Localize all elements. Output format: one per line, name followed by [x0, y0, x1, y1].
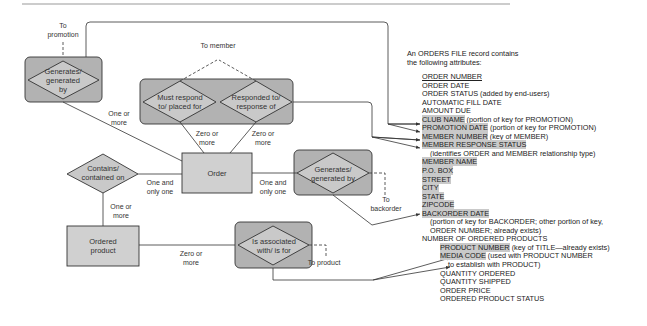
order-entity-label: Order — [182, 153, 252, 193]
attribute-name: AMOUNT DUE — [422, 106, 471, 115]
attribute-name: ZIPCODE — [422, 200, 454, 209]
backorder-relationship-label: Generates/ generated by — [310, 158, 356, 190]
cardinality-promotion-order: One or more — [104, 110, 134, 127]
member-must-relationship-label: Must respond to/ placed for — [155, 86, 205, 118]
promotion-relationship-label: Generates/ generated by — [42, 65, 84, 95]
associated-relationship-label: Is associated with/ is for — [244, 229, 304, 262]
attribute-name: ORDERED PRODUCT STATUS — [440, 294, 544, 303]
cardinality-contains-product: One or more — [106, 203, 136, 220]
attribute-row: CITY — [422, 184, 610, 193]
contains-relationship-label: Contains/ contained on — [78, 160, 128, 186]
cardinality-product-associated: Zero or more — [176, 250, 206, 267]
to-promotion-label: To promotion — [44, 22, 82, 39]
cardinality-responded-order: Zero or more — [248, 130, 278, 147]
attribute-row: ORDERED PRODUCT STATUS — [422, 295, 610, 304]
attribute-list: ORDER NUMBERORDER DATEORDER STATUS (adde… — [422, 73, 610, 304]
cardinality-order-backorder: One and only one — [258, 179, 288, 196]
cardinality-order-contains: One and only one — [145, 179, 175, 196]
intro-line-2: the following attributes: — [407, 59, 519, 68]
member-responded-relationship-label: Responded to/ response of — [226, 89, 286, 115]
attribute-name: PROMOTION DATE — [422, 123, 488, 132]
cardinality-must-order: Zero or more — [192, 130, 222, 147]
attributes-intro: An ORDERS FILE record contains the follo… — [407, 50, 519, 67]
attribute-name: P.O. BOX — [422, 166, 453, 175]
attribute-name: CITY — [422, 183, 439, 192]
to-member-label: To member — [200, 42, 236, 51]
to-product-label: To product — [307, 259, 341, 268]
attribute-row: STREET — [422, 176, 610, 185]
ordered-product-entity-label: Ordered product — [80, 226, 126, 266]
to-backorder-label: To backorder — [368, 196, 404, 213]
